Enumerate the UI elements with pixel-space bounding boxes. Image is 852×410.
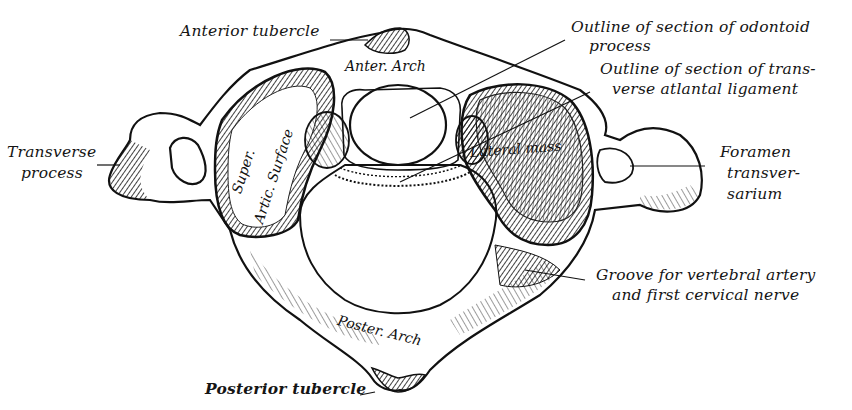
- label-foramen-line2: transver-: [727, 164, 800, 182]
- label-foramen-line3: sarium: [727, 185, 782, 203]
- label-transverse-line2: process: [21, 164, 83, 182]
- atlas-diagram: Anterior tubercle Outline of section of …: [0, 0, 852, 410]
- label-posterior-tubercle: Posterior tubercle: [205, 380, 366, 398]
- label-groove-line1: Groove for vertebral artery: [596, 266, 816, 284]
- label-transverse-line1: Transverse: [7, 143, 96, 161]
- label-foramen-line1: Foramen: [720, 143, 791, 161]
- anterior-tubercle: [365, 28, 409, 53]
- label-groove-line2: and first cervical nerve: [612, 286, 799, 304]
- label-odontoid-line2: process: [589, 37, 651, 55]
- label-odontoid-line1: Outline of section of odontoid: [571, 18, 810, 36]
- label-anterior-tubercle: Anterior tubercle: [180, 22, 320, 40]
- odontoid-section-outline: [350, 85, 446, 165]
- inlabel-anter-arch: Anter. Arch: [345, 58, 426, 74]
- label-ligament-line1: Outline of section of trans-: [600, 60, 816, 78]
- label-ligament-line2: verse atlantal ligament: [612, 80, 798, 98]
